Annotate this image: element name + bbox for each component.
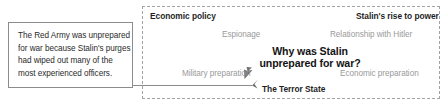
center-question: Why was Stalin unprepared for war? <box>225 45 395 70</box>
branch-label-economic-policy[interactable]: Economic policy <box>150 11 216 22</box>
branch-label-relationship-with-hitler[interactable]: Relationship with Hitler <box>330 29 412 40</box>
center-question-line-1: Why was Stalin <box>225 45 395 57</box>
branch-label-the-terror-state[interactable]: The Terror State <box>262 84 325 95</box>
callout-line-4: most experienced officers. <box>18 68 124 81</box>
center-question-line-2: unprepared for war? <box>225 57 395 69</box>
diagram-canvas: The Red Army was unprepared for war beca… <box>0 0 446 112</box>
callout-line-1: The Red Army was unprepared <box>18 30 124 43</box>
branch-label-stalins-rise-to-power[interactable]: Stalin's rise to power <box>356 11 439 22</box>
callout-line-2: for war because Stalin's purges <box>18 43 124 56</box>
callout-line-3: had wiped out many of the <box>18 55 124 68</box>
branch-label-espionage[interactable]: Espionage <box>222 29 260 40</box>
callout-box: The Red Army was unprepared for war beca… <box>8 22 133 88</box>
